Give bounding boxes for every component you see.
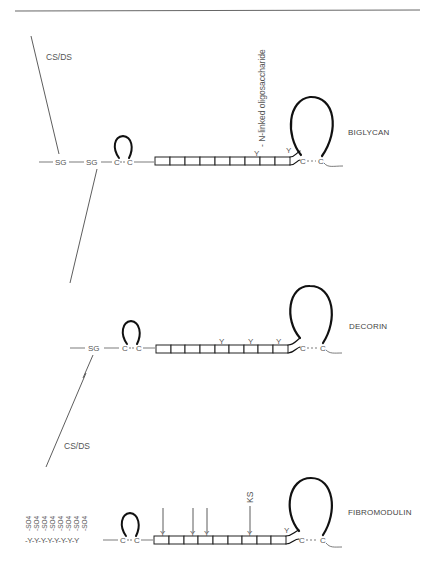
oligosaccharide-icon: Y: [219, 337, 225, 346]
cys-residue: C: [134, 536, 140, 545]
ks-label: KS: [245, 491, 255, 503]
decorin-molecule: SG C C Y Y Y C C DECORIN C: [46, 286, 387, 467]
svg-text:-SO4: -SO4: [57, 515, 64, 531]
sg-residue-2: SG: [86, 158, 98, 167]
csds-chain-middle: [70, 169, 97, 283]
fibromodulin-molecule: -SO4 -SO4 -SO4 -SO4 -SO4 -SO4 -SO4 -SO4 …: [25, 478, 412, 547]
svg-text:Y: Y: [160, 529, 166, 538]
cys-residue: C: [300, 344, 306, 353]
disulfide-loop-small: [123, 321, 140, 344]
cys-residue: C: [318, 157, 324, 166]
biglycan-label: BIGLYCAN: [348, 128, 389, 137]
sg-residue-1: SG: [55, 158, 67, 167]
csds-label-bottom: CS/DS: [64, 441, 90, 451]
proteoglycan-diagram: CS/DS SG SG C C Y Y - N-linked: [0, 0, 433, 575]
leucine-rich-repeats: [156, 345, 288, 353]
cys-residue: C: [320, 344, 326, 353]
svg-text:-SO4: -SO4: [81, 515, 88, 531]
oligosaccharide-icon: Y: [284, 526, 290, 535]
leucine-rich-repeats: [155, 157, 290, 165]
n-linked-oligosaccharide-icon: Y: [286, 146, 292, 155]
cys-residue: C: [122, 344, 128, 353]
disulfide-loop-small: [115, 136, 132, 158]
keratan-sulfate-chains: Y Y Y Y: [160, 506, 253, 538]
svg-text:-SO4: -SO4: [33, 515, 40, 531]
n-linked-oligosaccharide-label: - N-linked oligosaccharide: [257, 49, 267, 147]
csds-label-top: CS/DS: [46, 52, 72, 62]
disulfide-loop-small: [122, 513, 139, 536]
cys-residue: C: [299, 536, 305, 545]
n-linked-oligosaccharide-icon: Y: [254, 149, 260, 158]
svg-text:Y: Y: [190, 529, 196, 538]
svg-text:-SO4: -SO4: [25, 515, 32, 531]
svg-text:-SO4: -SO4: [41, 515, 48, 531]
svg-text:Y: Y: [204, 529, 210, 538]
cys-residue: C: [114, 158, 120, 167]
sg-residue: SG: [88, 344, 100, 353]
oligosaccharide-icon: Y: [276, 337, 282, 346]
svg-text:-SO4: -SO4: [49, 515, 56, 531]
csds-chain-bottom: [46, 373, 86, 467]
cys-residue: C: [136, 344, 142, 353]
svg-text:-SO4: -SO4: [65, 515, 72, 531]
disulfide-loop-large: [291, 97, 333, 156]
cys-residue: C: [127, 158, 133, 167]
disulfide-loop-large: [290, 478, 332, 535]
disulfide-loop-large: [290, 286, 332, 343]
svg-text:Y: Y: [247, 529, 253, 538]
leucine-rich-repeats: [154, 536, 286, 544]
oligosaccharide-icon: Y: [248, 337, 254, 346]
fibromodulin-label: FIBROMODULIN: [348, 508, 412, 517]
decorin-label: DECORIN: [349, 322, 387, 331]
cys-residue: C: [320, 536, 326, 545]
tyrosine-sulfate-tail: -Y-Y-Y-Y-Y-Y-Y-Y: [25, 536, 80, 545]
top-rule: [15, 10, 420, 11]
biglycan-molecule: CS/DS SG SG C C Y Y - N-linked: [31, 36, 389, 283]
sulfate-groups: -SO4 -SO4 -SO4 -SO4 -SO4 -SO4 -SO4 -SO4: [25, 515, 88, 531]
cys-residue: C: [120, 536, 126, 545]
cys-residue: C: [300, 157, 306, 166]
svg-text:-SO4: -SO4: [73, 515, 80, 531]
